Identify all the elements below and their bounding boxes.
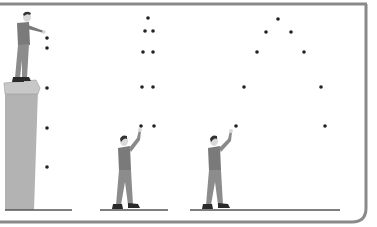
ball-icon bbox=[255, 50, 259, 54]
person-throwing-angle bbox=[202, 129, 233, 209]
ball-icon bbox=[151, 50, 155, 54]
ball-icon bbox=[234, 124, 238, 128]
ball-icon bbox=[45, 46, 49, 50]
ball-icon bbox=[319, 85, 323, 89]
ball-icon bbox=[323, 124, 327, 128]
panel-thrown-at-angle bbox=[234, 17, 327, 128]
ball-icon bbox=[45, 165, 49, 169]
ball-icon bbox=[151, 29, 155, 33]
ball-icon bbox=[146, 16, 150, 20]
person-on-cliff bbox=[12, 12, 46, 82]
ball-icon bbox=[143, 29, 147, 33]
cliff bbox=[4, 80, 40, 210]
ball-icon bbox=[141, 50, 145, 54]
ball-icon bbox=[45, 86, 49, 90]
person-throwing-up bbox=[112, 128, 142, 209]
panel-dropped-from-cliff bbox=[45, 36, 49, 169]
ball-icon bbox=[140, 85, 144, 89]
ball-icon bbox=[152, 124, 156, 128]
ball-icon bbox=[302, 50, 306, 54]
ball-icon bbox=[276, 17, 280, 21]
ball-icon bbox=[264, 30, 268, 34]
ball-icon bbox=[289, 30, 293, 34]
panel-thrown-straight-up bbox=[139, 16, 156, 128]
ball-icon bbox=[151, 85, 155, 89]
ball-icon bbox=[45, 126, 49, 130]
ball-icon bbox=[139, 124, 143, 128]
projectile-motion-diagram bbox=[0, 0, 377, 227]
frame-border bbox=[0, 4, 367, 222]
ball-icon bbox=[242, 85, 246, 89]
ball-positions bbox=[45, 16, 327, 169]
figure-canvas bbox=[0, 0, 377, 227]
ball-icon bbox=[45, 36, 49, 40]
